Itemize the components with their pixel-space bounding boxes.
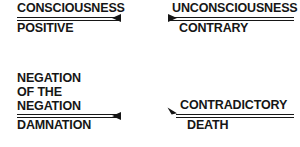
arrow-left-icon — [112, 112, 121, 120]
term-denominator-damnation: DAMNATION — [17, 119, 121, 133]
term-denominator-death: DEATH — [176, 119, 294, 133]
term-numerator-negation-line1: NEGATION — [17, 71, 121, 85]
term-numerator-contradictory: CONTRADICTORY — [176, 99, 294, 113]
rule-line-lower — [168, 20, 294, 21]
term-numerator-negation-line3: NEGATION — [17, 99, 121, 113]
arrow-up-left-icon — [167, 107, 178, 118]
rule-line-upper — [176, 114, 294, 115]
term-numerator-consciousness: CONSCIOUSNESS — [17, 2, 121, 16]
term-rule-negation — [17, 114, 121, 118]
rule-line-upper — [168, 17, 294, 18]
arrow-right-icon — [168, 14, 177, 22]
rule-line-lower — [176, 117, 294, 118]
rule-line-lower — [17, 20, 121, 21]
term-group-negation: NEGATION OF THE NEGATION DAMNATION — [17, 71, 121, 133]
term-rule-unconsciousness — [168, 17, 294, 21]
term-numerator-unconsciousness: UNCONSCIOUSNESS — [168, 2, 294, 16]
rule-line-upper — [17, 114, 121, 115]
term-rule-contradictory — [176, 114, 294, 118]
term-group-consciousness: CONSCIOUSNESS POSITIVE — [17, 2, 121, 35]
diagram-canvas: CONSCIOUSNESS POSITIVE UNCONSCIOUSNESS C… — [0, 0, 300, 147]
arrow-left-icon — [112, 14, 121, 22]
term-denominator-contrary: CONTRARY — [168, 22, 294, 36]
term-group-contradictory: CONTRADICTORY DEATH — [176, 99, 294, 132]
term-rule-consciousness — [17, 17, 121, 21]
term-group-unconsciousness: UNCONSCIOUSNESS CONTRARY — [168, 2, 294, 35]
rule-line-upper — [17, 17, 121, 18]
rule-line-lower — [17, 117, 121, 118]
term-denominator-positive: POSITIVE — [17, 22, 121, 36]
term-numerator-negation-line2: OF THE — [17, 85, 121, 99]
